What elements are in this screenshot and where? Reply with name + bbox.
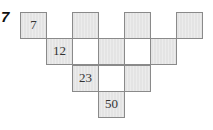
pyramid-cell-r1-c2[interactable] — [72, 38, 99, 65]
pyramid-cell-r1-c5[interactable] — [150, 38, 177, 65]
pyramid-cell-r2-c4[interactable] — [124, 65, 151, 92]
number-pyramid: 7 12 23 50 — [0, 0, 213, 130]
cell-value: 50 — [105, 96, 118, 112]
cell-value: 7 — [30, 17, 37, 33]
pyramid-cell-r1-c1[interactable]: 12 — [46, 38, 73, 65]
pyramid-cell-r2-c2[interactable]: 23 — [72, 65, 99, 92]
pyramid-cell-r0-c4[interactable] — [124, 12, 151, 39]
pyramid-cell-r0-c0[interactable]: 7 — [20, 12, 47, 39]
pyramid-cell-r3-c3[interactable]: 50 — [98, 91, 125, 118]
pyramid-cell-r2-c3[interactable] — [98, 65, 125, 92]
pyramid-cell-r0-c6[interactable] — [176, 12, 203, 39]
cell-value: 12 — [53, 43, 66, 59]
pyramid-cell-r1-c3[interactable] — [98, 38, 125, 65]
pyramid-cell-r1-c4[interactable] — [124, 38, 151, 65]
cell-value: 23 — [79, 70, 92, 86]
pyramid-cell-r0-c2[interactable] — [72, 12, 99, 39]
